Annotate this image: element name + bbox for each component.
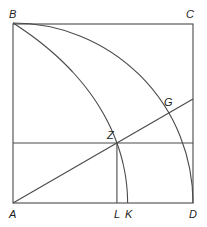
quadratrix-curve-BZK	[13, 23, 128, 203]
label-B: B	[9, 8, 16, 20]
label-C: C	[186, 8, 194, 20]
label-D: D	[189, 208, 197, 220]
label-A: A	[8, 208, 16, 220]
line-AG	[13, 99, 193, 203]
diagram-canvas: A B C D G Z L K	[0, 0, 207, 227]
label-G: G	[164, 96, 173, 108]
label-Z: Z	[106, 129, 115, 141]
label-L: L	[114, 208, 120, 220]
label-K: K	[125, 208, 133, 220]
